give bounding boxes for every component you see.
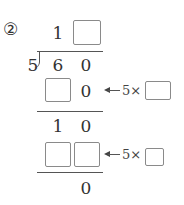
step2-tens-answer-box[interactable] <box>45 142 71 167</box>
step2-ones-answer-box[interactable] <box>74 142 100 167</box>
remainder1-ones-digit: 0 <box>79 118 93 135</box>
step1-ones-digit: 0 <box>79 83 93 100</box>
quotient-tens-digit: 1 <box>45 25 71 42</box>
dividend-ones-digit: 0 <box>79 57 93 74</box>
dividend-tens-digit: 6 <box>51 57 65 74</box>
step2-hint-multiplier: 5× <box>122 148 141 162</box>
arrow-shaft <box>108 154 120 155</box>
divisor: 5 <box>26 57 40 74</box>
subtraction-line-1 <box>37 111 103 112</box>
step1-hint-answer-box[interactable] <box>145 81 171 100</box>
final-remainder-digit: 0 <box>79 180 93 197</box>
problem-number-label: ② <box>3 21 18 38</box>
division-bar <box>37 51 103 52</box>
arrow-shaft <box>108 90 120 91</box>
step1-hint-multiplier: 5× <box>122 84 141 98</box>
remainder1-tens-digit: 1 <box>51 118 65 135</box>
step1-tens-answer-box[interactable] <box>45 78 71 102</box>
subtraction-line-2 <box>37 172 103 173</box>
quotient-ones-answer-box[interactable] <box>73 20 101 45</box>
step2-hint-answer-box[interactable] <box>145 148 164 166</box>
